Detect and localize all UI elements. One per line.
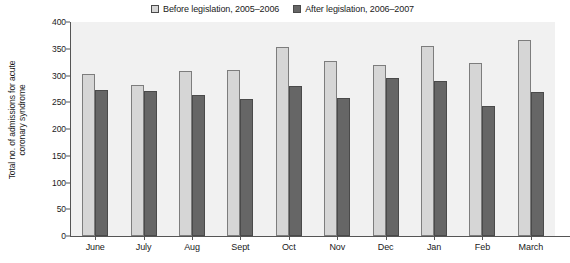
legend-label-after: After legislation, 2006–2007 <box>305 4 414 14</box>
bar-before-legislation <box>227 70 240 236</box>
y-tick-mark <box>66 22 70 23</box>
x-tick-label: July <box>119 242 167 252</box>
x-tick-label: March <box>507 242 555 252</box>
x-tick-mark <box>337 236 338 240</box>
bar-after-legislation <box>95 90 108 236</box>
y-tick-label: 200 <box>18 124 66 134</box>
x-tick-label: Dec <box>361 242 409 252</box>
bar-group <box>168 22 216 236</box>
bar-after-legislation <box>434 81 447 236</box>
x-tick-mark <box>95 236 96 240</box>
x-tick-label: Aug <box>168 242 216 252</box>
bar-before-legislation <box>131 85 144 236</box>
bar-after-legislation <box>192 95 205 236</box>
bar-group <box>507 22 555 236</box>
legend-swatch-before <box>151 5 159 13</box>
x-tick-label: Sept <box>216 242 264 252</box>
x-tick-label: Oct <box>265 242 313 252</box>
y-tick-mark <box>66 129 70 130</box>
x-tick-mark <box>434 236 435 240</box>
bar-group <box>71 22 119 236</box>
y-tick-mark <box>66 48 70 49</box>
y-tick-mark <box>66 75 70 76</box>
x-tick-mark <box>192 236 193 240</box>
bar-group <box>361 22 409 236</box>
y-tick-label: 350 <box>18 44 66 54</box>
bar-before-legislation <box>469 63 482 236</box>
y-tick-mark <box>66 155 70 156</box>
bar-group <box>265 22 313 236</box>
y-tick-label: 250 <box>18 97 66 107</box>
legend-label-before: Before legislation, 2005–2006 <box>163 4 279 14</box>
bar-group <box>458 22 506 236</box>
bar-before-legislation <box>373 65 386 236</box>
bar-after-legislation <box>386 78 399 236</box>
bar-before-legislation <box>421 46 434 236</box>
x-tick-mark <box>531 236 532 240</box>
x-tick-label: June <box>71 242 119 252</box>
bar-before-legislation <box>324 61 337 236</box>
bar-group <box>410 22 458 236</box>
bar-series-layer <box>71 22 555 236</box>
x-tick-mark <box>386 236 387 240</box>
bar-after-legislation <box>144 91 157 236</box>
y-tick-mark <box>66 209 70 210</box>
y-tick-label: 0 <box>18 231 66 241</box>
y-tick-mark <box>66 102 70 103</box>
legend-item-after: After legislation, 2006–2007 <box>293 4 414 14</box>
bar-group <box>216 22 264 236</box>
legend-item-before: Before legislation, 2005–2006 <box>151 4 279 14</box>
y-axis-title-line-1: Total no. of admissions for acute <box>7 61 17 180</box>
y-tick-label: 400 <box>18 17 66 27</box>
bar-before-legislation <box>518 40 531 236</box>
bar-before-legislation <box>179 71 192 236</box>
bar-before-legislation <box>276 47 289 236</box>
y-tick-label: 150 <box>18 151 66 161</box>
bar-group <box>119 22 167 236</box>
x-tick-label: Nov <box>313 242 361 252</box>
x-axis-line <box>70 236 570 237</box>
x-axis-labels: JuneJulyAugSeptOctNovDecJanFebMarch <box>71 242 555 252</box>
bar-after-legislation <box>531 92 544 236</box>
x-tick-mark <box>482 236 483 240</box>
y-tick-label: 100 <box>18 178 66 188</box>
plot-wrapper: 050100150200250300350400 <box>56 22 555 236</box>
y-tick-label: 300 <box>18 71 66 81</box>
bar-after-legislation <box>289 86 302 236</box>
y-tick-mark <box>66 236 70 237</box>
bar-after-legislation <box>240 99 253 236</box>
legend-swatch-after <box>293 5 301 13</box>
x-tick-mark <box>144 236 145 240</box>
y-tick-label: 50 <box>18 204 66 214</box>
bar-after-legislation <box>337 98 350 236</box>
x-tick-label: Jan <box>410 242 458 252</box>
chart-legend: Before legislation, 2005–2006 After legi… <box>0 4 565 14</box>
x-tick-mark <box>240 236 241 240</box>
bar-group <box>313 22 361 236</box>
x-tick-mark <box>289 236 290 240</box>
bar-after-legislation <box>482 106 495 236</box>
x-tick-label: Feb <box>458 242 506 252</box>
bar-before-legislation <box>82 74 95 236</box>
y-tick-mark <box>66 182 70 183</box>
